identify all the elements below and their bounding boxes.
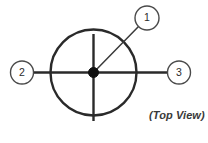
callout-3-label: 3 bbox=[176, 66, 182, 78]
callout-badge-1[interactable]: 1 bbox=[135, 6, 159, 30]
callout-1-label: 1 bbox=[144, 11, 150, 23]
callout-badge-3[interactable]: 3 bbox=[168, 61, 191, 84]
view-caption: (Top View) bbox=[149, 109, 205, 122]
technical-diagram-figure: 1 2 3 (Top View) bbox=[0, 0, 208, 143]
callout-badge-2[interactable]: 2 bbox=[11, 61, 34, 84]
center-hub-dot bbox=[89, 68, 99, 78]
callout-2-label: 2 bbox=[19, 66, 25, 78]
